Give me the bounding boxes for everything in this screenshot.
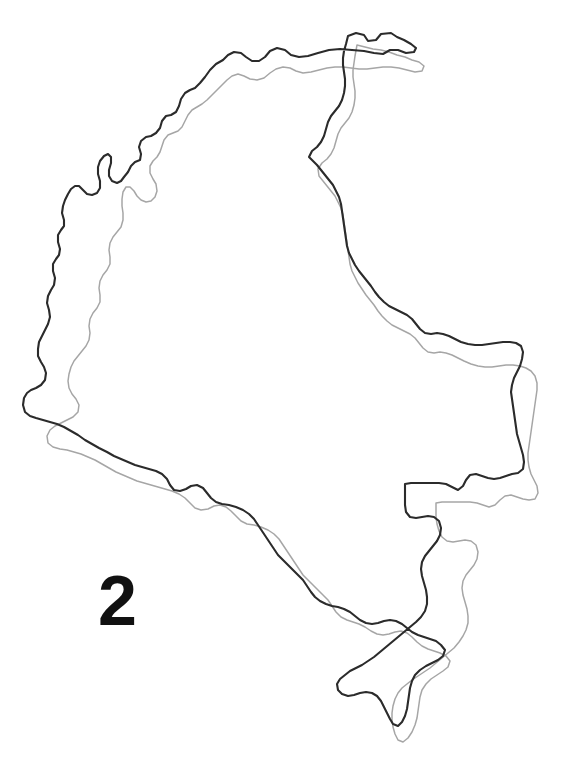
map-outline-svg xyxy=(0,0,581,776)
figure-root: 2 xyxy=(0,0,581,776)
map-background xyxy=(0,0,581,776)
figure-number-label: 2 xyxy=(98,566,137,636)
